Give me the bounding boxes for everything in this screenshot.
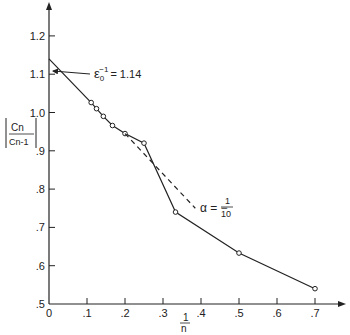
dashed-fit-line — [125, 134, 195, 209]
y-ticks: .5.6.7.8.91.01.11.2 — [30, 30, 55, 310]
data-line — [49, 59, 315, 289]
y-axis-arrow-icon — [46, 2, 52, 10]
x-tick-label: .4 — [196, 307, 205, 319]
x-tick-label: .6 — [272, 307, 281, 319]
x-tick-label: .5 — [234, 307, 243, 319]
x-tick-label: 0 — [46, 307, 52, 319]
x-tick-label: .1 — [82, 307, 91, 319]
data-point-marker — [101, 114, 106, 119]
svg-text:ε0−1= 1.14: ε0−1= 1.14 — [94, 65, 141, 83]
y-tick-label: .8 — [36, 183, 45, 195]
x-axis-arrow-icon — [338, 301, 346, 307]
svg-text:10: 10 — [221, 209, 231, 219]
x-tick-label: .3 — [158, 307, 167, 319]
data-point-marker — [237, 251, 242, 256]
svg-text:1: 1 — [225, 196, 230, 206]
y-tick-label: 1.2 — [30, 30, 45, 42]
x-tick-label: .2 — [120, 307, 129, 319]
data-point-marker — [173, 210, 178, 215]
svg-text:n: n — [181, 323, 187, 334]
data-point-marker — [313, 286, 318, 291]
axes — [46, 2, 346, 307]
x-axis-label: 1 n — [180, 312, 190, 334]
chart: .5.6.7.8.91.01.11.2 0.1.2.3.4.5.6.7 ε0−1… — [0, 0, 350, 335]
series — [49, 59, 317, 291]
y-tick-label: .6 — [36, 260, 45, 272]
svg-text:Cn: Cn — [11, 122, 24, 133]
svg-text:1: 1 — [183, 312, 189, 323]
y-tick-label: 1.1 — [30, 68, 45, 80]
svg-text:Cn-1: Cn-1 — [9, 137, 29, 147]
data-point-marker — [142, 141, 147, 146]
y-tick-label: .5 — [36, 298, 45, 310]
y-tick-label: 1.0 — [30, 107, 45, 119]
y-axis-label: Cn Cn-1 — [6, 118, 36, 148]
y-tick-label: .7 — [36, 221, 45, 233]
data-point-marker — [94, 106, 99, 111]
data-point-marker — [89, 100, 94, 105]
data-point-marker — [110, 123, 115, 128]
epsilon-annotation: ε0−1= 1.14 — [53, 65, 141, 83]
y-tick-label: .9 — [36, 145, 45, 157]
alpha-annotation: α = − 1 10 — [200, 196, 233, 219]
x-tick-label: .7 — [310, 307, 319, 319]
